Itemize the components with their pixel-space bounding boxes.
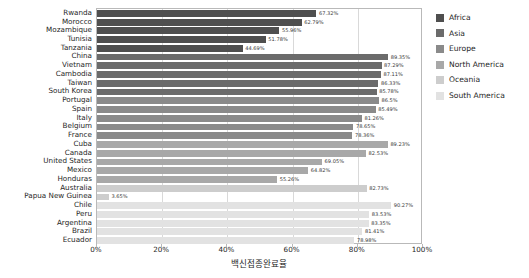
legend-item-europe[interactable]: Europe [436,41,528,57]
bar-honduras[interactable] [97,176,277,183]
bar-peru[interactable] [97,211,369,218]
bar-value-label: 85.78% [379,89,398,94]
bar-value-label: 78.36% [355,133,374,138]
x-tick-mark [226,244,227,247]
bar-row[interactable]: 51.78% [97,36,421,43]
bar-south-korea[interactable] [97,89,377,96]
bar-value-label: 3.65% [111,194,127,199]
bar-row[interactable]: 87.29% [97,62,421,69]
legend-item-asia[interactable]: Asia [436,26,528,42]
bar-value-label: 85.49% [378,107,397,112]
bar-value-label: 78.98% [357,238,376,243]
bar-row[interactable]: 83.35% [97,220,421,227]
legend-swatch-icon [436,61,444,69]
bar-row[interactable]: 89.35% [97,54,421,61]
x-tick-mark [422,244,423,247]
legend-label: South America [449,92,505,100]
bar-cambodia[interactable] [97,71,381,78]
bar-row[interactable]: 87.11% [97,71,421,78]
legend-item-africa[interactable]: Africa [436,10,528,26]
bar-value-label: 81.26% [364,116,383,121]
bar-row[interactable]: 86.5% [97,97,421,104]
legend-label: North America [449,61,504,69]
y-axis-label-morocco: Morocco [0,18,92,25]
y-axis-label-ecuador: Ecuador [0,236,92,243]
bar-row[interactable]: 83.53% [97,211,421,218]
bar-china[interactable] [97,54,388,61]
x-axis-tick-labels: 0%20%40%60%80%100% [96,246,422,258]
bar-brazil[interactable] [97,228,362,235]
legend-item-oceania[interactable]: Oceania [436,72,528,88]
legend-item-north-america[interactable]: North America [436,57,528,73]
bar-row[interactable]: 82.53% [97,150,421,157]
bar-row[interactable]: 89.23% [97,141,421,148]
bar-france[interactable] [97,132,352,139]
bar-row[interactable]: 69.05% [97,159,421,166]
x-tick-100%: 100% [412,246,433,253]
x-tick-80%: 80% [349,246,365,253]
bar-row[interactable]: 85.49% [97,106,421,113]
bar-row[interactable]: 55.96% [97,27,421,34]
y-axis-label-vietnam: Vietnam [0,61,92,68]
bar-row[interactable]: 78.36% [97,132,421,139]
bar-taiwan[interactable] [97,80,378,87]
bar-tanzania[interactable] [97,45,243,52]
bar-italy[interactable] [97,115,362,122]
bar-row[interactable]: 67.32% [97,10,421,17]
bar-row[interactable]: 82.73% [97,185,421,192]
bar-row[interactable]: 78.65% [97,124,421,131]
bar-ecuador[interactable] [97,237,354,244]
bar-united-states[interactable] [97,159,322,166]
bar-australia[interactable] [97,185,367,192]
bar-papua-new-guinea[interactable] [97,194,109,201]
bar-rows: 67.32%62.79%55.96%51.78%44.69%89.35%87.2… [97,9,421,243]
bar-row[interactable]: 3.65% [97,194,421,201]
y-axis-label-australia: Australia [0,184,92,191]
y-axis-label-cuba: Cuba [0,140,92,147]
bar-row[interactable]: 90.27% [97,202,421,209]
bar-mozambique[interactable] [97,27,279,34]
bar-belgium[interactable] [97,124,353,131]
legend-label: Asia [449,30,465,38]
legend-item-south-america[interactable]: South America [436,88,528,104]
legend-label: Oceania [449,76,480,84]
bar-row[interactable]: 44.69% [97,45,421,52]
bar-row[interactable]: 86.33% [97,80,421,87]
bar-morocco[interactable] [97,19,302,26]
vaccination-rate-bar-chart: RwandaMoroccoMozambiqueTunisiaTanzaniaCh… [0,0,529,278]
bar-value-label: 87.29% [384,63,403,68]
y-axis-label-united-states: United States [0,157,92,164]
x-tick-60%: 60% [284,246,300,253]
bar-value-label: 81.41% [365,229,384,234]
bar-canada[interactable] [97,150,366,157]
bar-value-label: 51.78% [268,37,287,42]
legend-label: Europe [449,45,476,53]
bar-row[interactable]: 81.26% [97,115,421,122]
bar-cuba[interactable] [97,141,388,148]
bar-row[interactable]: 64.82% [97,167,421,174]
bar-vietnam[interactable] [97,62,382,69]
bar-row[interactable]: 78.98% [97,237,421,244]
bar-chile[interactable] [97,202,391,209]
bar-row[interactable]: 62.79% [97,19,421,26]
legend: AfricaAsiaEuropeNorth AmericaOceaniaSout… [436,10,528,104]
x-tick-0%: 0% [90,246,101,253]
plot-area: 67.32%62.79%55.96%51.78%44.69%89.35%87.2… [96,8,422,244]
bar-value-label: 78.65% [356,124,375,129]
bar-row[interactable]: 55.26% [97,176,421,183]
bar-value-label: 86.33% [381,81,400,86]
bar-mexico[interactable] [97,167,308,174]
y-axis-category-labels: RwandaMoroccoMozambiqueTunisiaTanzaniaCh… [0,8,94,244]
bar-value-label: 83.35% [371,221,390,226]
y-axis-label-france: France [0,131,92,138]
legend-swatch-icon [436,92,444,100]
bar-row[interactable]: 81.41% [97,228,421,235]
x-tick-20%: 20% [153,246,169,253]
bar-argentina[interactable] [97,220,369,227]
bar-tunisia[interactable] [97,36,266,43]
bar-row[interactable]: 85.78% [97,89,421,96]
bar-value-label: 44.69% [245,46,264,51]
bar-rwanda[interactable] [97,10,316,17]
bar-portugal[interactable] [97,97,379,104]
bar-spain[interactable] [97,106,376,113]
